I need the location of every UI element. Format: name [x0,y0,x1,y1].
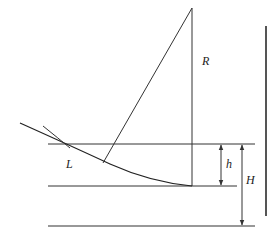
label-R: R [201,54,210,68]
label-h: h [226,157,232,171]
geometry-diagram: R L h H [0,0,267,240]
arc-curve [20,123,192,186]
diagram-canvas: R L h H [0,0,267,240]
label-H: H [245,173,256,187]
label-L: L [65,157,73,171]
tangent-line [43,126,70,148]
slant-radius-line [103,8,192,163]
